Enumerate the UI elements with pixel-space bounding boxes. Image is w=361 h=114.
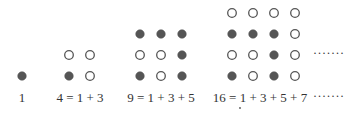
hollow-dot-fig4-r1-c1: [228, 9, 237, 18]
hollow-dot-fig2-r2-c2: [86, 72, 95, 81]
filled-dot-fig3-r3-c1: [136, 72, 145, 81]
label-16: 16 = 1 + 3 + 5 + 7: [213, 90, 308, 105]
filled-dot-fig2-r2-c1: [65, 72, 74, 81]
hollow-dot-fig4-r3-c1: [228, 51, 237, 60]
filled-dot-fig1-r1-c1: [18, 72, 27, 81]
filled-dot-fig3-r1-c1: [136, 30, 145, 39]
hollow-dot-fig4-r1-c4: [291, 9, 300, 18]
filled-dot-fig4-r3-c3: [270, 51, 279, 60]
hollow-dot-fig3-r2-c2: [157, 51, 166, 60]
hollow-dot-fig3-r2-c1: [136, 51, 145, 60]
label-4: 4 = 1 + 3: [56, 90, 103, 105]
hollow-dot-fig4-r3-c2: [249, 51, 258, 60]
hollow-dot-fig3-r3-c2: [157, 72, 166, 81]
filled-dot-fig3-r2-c3: [178, 51, 187, 60]
hollow-dot-fig2-r1-c1: [65, 51, 74, 60]
hollow-dot-fig4-r4-c2: [249, 72, 258, 81]
hollow-dot-fig4-r1-c3: [270, 9, 279, 18]
continuation-dots-label: ·······: [313, 89, 344, 103]
hollow-dot-fig4-r3-c4: [291, 51, 300, 60]
filled-dot-fig3-r3-c3: [178, 72, 187, 81]
label-1: 1: [19, 90, 26, 105]
hollow-dot-fig2-r1-c2: [86, 51, 95, 60]
filled-dot-fig4-r4-c1: [228, 72, 237, 81]
continuation-dots-grid: ·······: [313, 46, 344, 60]
hollow-dot-fig4-r1-c2: [249, 9, 258, 18]
label-9: 9 = 1 + 3 + 5: [127, 90, 195, 105]
odd-sum-square-diagram: 1 4 = 1 + 3 9 = 1 + 3 + 5 16 = 1 + 3 + 5…: [0, 0, 361, 114]
filled-dot-fig4-r2-c1: [228, 30, 237, 39]
hollow-dot-fig4-r2-c4: [291, 30, 300, 39]
filled-dot-fig4-r2-c3: [270, 30, 279, 39]
hollow-dot-fig4-r4-c4: [291, 72, 300, 81]
filled-dot-fig4-r4-c3: [270, 72, 279, 81]
filled-dot-fig3-r1-c3: [178, 30, 187, 39]
filled-dot-fig4-r2-c2: [249, 30, 258, 39]
stray-mark: [239, 107, 241, 109]
filled-dot-fig3-r1-c2: [157, 30, 166, 39]
